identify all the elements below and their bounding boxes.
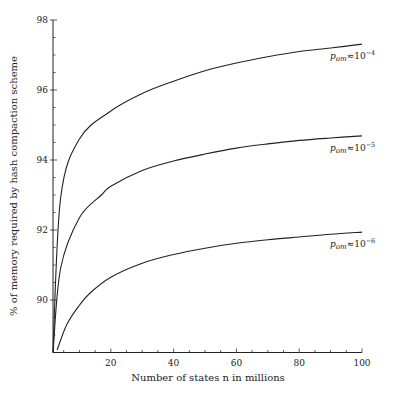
- curve-label: pom≈10−6: [330, 237, 375, 251]
- curve-pom-1e-4: [53, 44, 362, 352]
- curve-pom-1e-6: [57, 232, 362, 350]
- curve-label: pom≈10−4: [330, 49, 375, 63]
- curve-label: pom≈10−5: [330, 141, 375, 155]
- x-tick-label: 40: [168, 358, 180, 368]
- y-tick-label: 96: [37, 85, 49, 95]
- y-tick-label: 94: [37, 155, 49, 165]
- x-tick-label: 20: [105, 358, 117, 368]
- y-tick-label: 98: [37, 15, 49, 25]
- y-axis: 9092949698: [37, 15, 57, 353]
- x-axis: 20406080100: [53, 349, 371, 368]
- y-axis-title: % of memory required by hash compaction …: [8, 56, 19, 316]
- curve-pom-1e-5: [53, 136, 362, 353]
- x-axis-title: Number of states n in millions: [131, 372, 285, 383]
- x-tick-label: 80: [293, 358, 305, 368]
- curve-labels: pom≈10−4pom≈10−5pom≈10−6: [330, 49, 375, 251]
- y-tick-label: 90: [37, 295, 49, 305]
- x-tick-label: 100: [353, 358, 370, 368]
- line-chart: 9092949698 20406080100 pom≈10−4pom≈10−5p…: [0, 0, 395, 395]
- y-tick-label: 92: [37, 225, 48, 235]
- x-tick-label: 60: [231, 358, 243, 368]
- curves: [53, 44, 362, 352]
